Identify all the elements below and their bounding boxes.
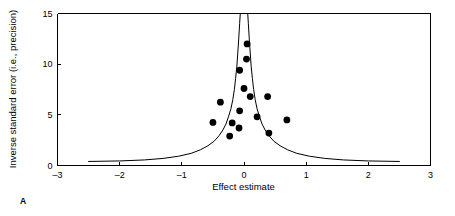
- funnel-plot-figure: –3–2–10123 051015 Effect estimate Invers…: [0, 0, 455, 216]
- x-tick-label: –1: [177, 170, 187, 180]
- scatter-point: [229, 120, 236, 127]
- scatter-point: [265, 130, 272, 137]
- scatter-point: [210, 119, 217, 126]
- scatter-point: [217, 99, 224, 106]
- y-tick-label: 0: [47, 161, 52, 171]
- scatter-point: [236, 125, 243, 132]
- x-axis-title: Effect estimate: [212, 181, 275, 192]
- x-tick-label: 2: [366, 170, 371, 180]
- scatter-point: [226, 133, 233, 140]
- y-tick-label: 5: [47, 110, 52, 120]
- scatter-point: [283, 117, 290, 124]
- scatter-point: [236, 107, 243, 114]
- y-axis-title: Inverse standard error (i.e., precision): [7, 10, 18, 168]
- scatter-point: [236, 67, 243, 74]
- x-tick-label: –2: [115, 170, 125, 180]
- funnel-curve-left: [89, 14, 241, 162]
- y-tick-label: 10: [42, 59, 52, 69]
- y-axis-tick-labels: 051015: [42, 9, 52, 171]
- y-tick-label: 15: [42, 9, 52, 19]
- scatter-point: [264, 93, 271, 100]
- x-axis-ticks: [58, 162, 431, 166]
- scatter-point: [243, 56, 250, 63]
- x-tick-label: 1: [304, 170, 309, 180]
- y-axis-ticks: [58, 14, 62, 166]
- funnel-curve-right: [248, 14, 400, 162]
- x-tick-label: 0: [241, 170, 246, 180]
- panel-label-a: A: [20, 196, 26, 206]
- scatter-point: [241, 85, 248, 92]
- scatter-point: [247, 93, 254, 100]
- x-tick-label: –3: [52, 170, 62, 180]
- x-tick-label: 3: [428, 170, 433, 180]
- x-axis-tick-labels: –3–2–10123: [52, 170, 433, 180]
- scatter-point: [254, 113, 261, 120]
- scatter-point: [244, 41, 251, 48]
- funnel-plot-chart: –3–2–10123 051015 Effect estimate Invers…: [0, 0, 455, 216]
